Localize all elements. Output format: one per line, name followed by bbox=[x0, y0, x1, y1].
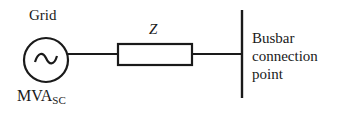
ac-source-icon bbox=[24, 38, 68, 82]
impedance-box bbox=[118, 44, 192, 65]
single-line-diagram: Grid MVASC Z Busbar connection point bbox=[0, 0, 346, 115]
rating-subscript: SC bbox=[52, 94, 65, 106]
impedance-label: Z bbox=[149, 21, 157, 38]
grid-label: Grid bbox=[29, 7, 57, 24]
rating-main: MVA bbox=[17, 87, 52, 104]
busbar-label: Busbar connection point bbox=[252, 29, 342, 83]
short-circuit-rating-label: MVASC bbox=[17, 87, 66, 106]
